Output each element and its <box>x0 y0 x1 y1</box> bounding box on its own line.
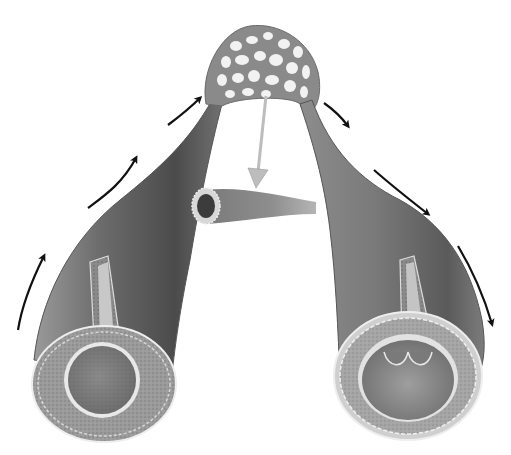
pointer-arrow <box>248 96 268 188</box>
illustration-canvas <box>0 0 511 455</box>
vessel-illustration: Illustration of an artery branching into… <box>0 0 511 455</box>
vein <box>300 100 484 440</box>
artery <box>32 100 222 442</box>
capillary-cross-section <box>192 188 316 224</box>
flow-arrow-icon <box>324 103 348 126</box>
flow-arrow-icon <box>18 256 44 330</box>
flow-arrow-icon <box>168 98 200 125</box>
capillary-bed <box>205 25 320 108</box>
